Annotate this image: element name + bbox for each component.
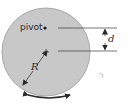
pivot-label: pivot xyxy=(20,23,43,32)
distance-label: d xyxy=(108,34,114,44)
pivot-dot-icon xyxy=(43,26,46,29)
pendulum-diagram: pivot d R xyxy=(0,0,128,110)
radius-label: R xyxy=(31,62,39,72)
stray-mark xyxy=(99,73,103,78)
diagram-canvas xyxy=(0,0,128,110)
